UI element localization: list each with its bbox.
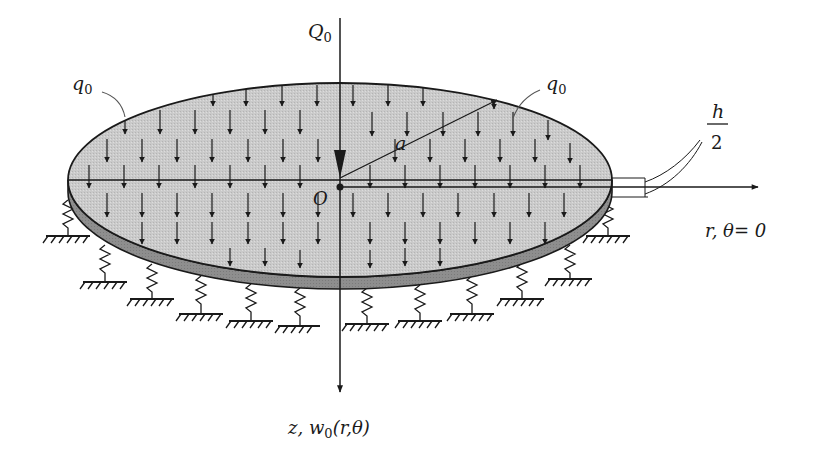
- z-axis-label: z, w0(r,θ): [287, 417, 370, 441]
- svg-text:h: h: [712, 100, 724, 122]
- radius-label: a: [395, 132, 406, 154]
- svg-text:2: 2: [711, 132, 722, 153]
- spring-5: [226, 284, 273, 328]
- distributed-load-label-left: q0: [72, 72, 92, 97]
- thickness-label: h 2: [707, 100, 728, 153]
- origin-label: O: [313, 188, 328, 209]
- spring-4: [176, 276, 223, 321]
- spring-3: [127, 264, 174, 306]
- plate-diagram: Q0 q0 q0 a O h 2 r, θ= 0 z, w0(r,θ): [0, 0, 826, 462]
- spring-6: [275, 288, 320, 333]
- spring-8: [395, 285, 442, 328]
- spring-2: [80, 245, 127, 289]
- spring-7: [342, 288, 389, 331]
- r-axis-label: r, θ= 0: [705, 220, 766, 241]
- point-load-label: Q0: [308, 20, 332, 45]
- thickness-indicator: [612, 140, 702, 197]
- distributed-load-label-right: q0: [546, 72, 566, 97]
- origin-point: [337, 184, 344, 191]
- q0-left-leader: [102, 92, 125, 117]
- spring-9: [447, 276, 494, 321]
